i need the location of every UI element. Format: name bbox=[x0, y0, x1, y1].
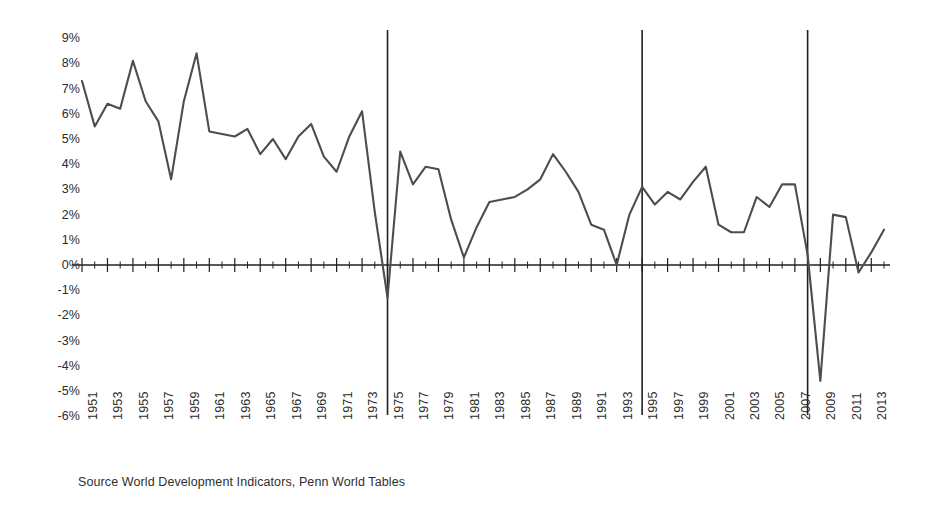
x-tick-label: 1997 bbox=[673, 391, 685, 420]
x-tick-label: 2013 bbox=[876, 391, 888, 420]
x-tick-label: 1975 bbox=[393, 391, 405, 420]
x-tick-label: 1961 bbox=[214, 391, 226, 420]
x-tick-label: 1979 bbox=[443, 391, 455, 420]
x-tick-label: 1951 bbox=[87, 391, 99, 420]
x-tick-label: 1995 bbox=[647, 391, 659, 420]
x-tick-label: 2003 bbox=[749, 391, 761, 420]
x-tick-label: 1965 bbox=[265, 391, 277, 420]
x-tick-label: 2007 bbox=[800, 391, 812, 420]
x-tick-label: 1999 bbox=[698, 391, 710, 420]
x-tick-label: 1989 bbox=[571, 391, 583, 420]
x-tick-label: 2005 bbox=[774, 391, 786, 420]
x-tick-label: 1959 bbox=[189, 391, 201, 420]
x-tick-label: 1963 bbox=[240, 391, 252, 420]
x-tick-label: 1981 bbox=[469, 391, 481, 420]
x-tick-label: 1955 bbox=[138, 391, 150, 420]
x-tick-label: 1957 bbox=[163, 391, 175, 420]
x-axis-tick-labels: 1951195319551957195919611963196519671969… bbox=[0, 0, 929, 515]
source-note: Source World Development Indicators, Pen… bbox=[78, 475, 405, 490]
x-tick-label: 2009 bbox=[825, 391, 837, 420]
x-tick-label: 1985 bbox=[520, 391, 532, 420]
x-tick-label: 2011 bbox=[851, 392, 863, 420]
x-tick-label: 1971 bbox=[342, 391, 354, 420]
x-tick-label: 1991 bbox=[596, 391, 608, 420]
x-tick-label: 1987 bbox=[545, 391, 557, 420]
x-tick-label: 1953 bbox=[112, 391, 124, 420]
x-tick-label: 1993 bbox=[622, 391, 634, 420]
x-tick-label: 1969 bbox=[316, 391, 328, 420]
chart-container: 9%8%7%6%5%4%3%2%1%0%-1%-2%-3%-4%-5%-6% 1… bbox=[0, 0, 929, 515]
x-tick-label: 1967 bbox=[291, 391, 303, 420]
x-tick-label: 1977 bbox=[418, 391, 430, 420]
x-tick-label: 2001 bbox=[724, 391, 736, 420]
x-tick-label: 1983 bbox=[494, 391, 506, 420]
x-tick-label: 1973 bbox=[367, 391, 379, 420]
